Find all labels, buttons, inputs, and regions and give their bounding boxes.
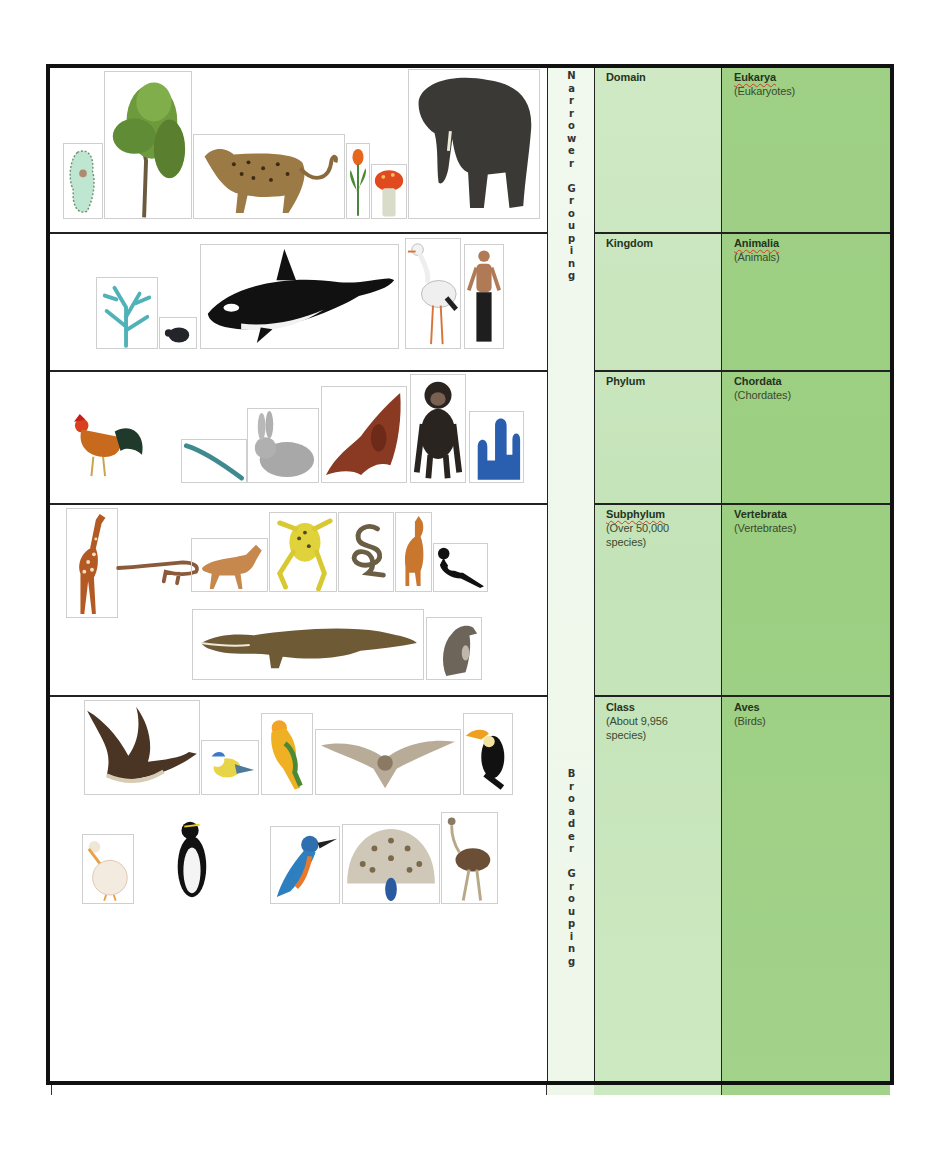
rank-note: (About 9,956 xyxy=(606,714,668,728)
pelican-image xyxy=(82,834,134,904)
blue-tit-image xyxy=(201,740,259,795)
taxon-name: Animalia xyxy=(734,236,780,250)
row-divider xyxy=(50,695,548,697)
rabbit-image xyxy=(247,408,319,483)
elephant-image xyxy=(408,69,540,219)
taxon-column xyxy=(722,68,890,1081)
rank-label: Phylum xyxy=(606,374,645,388)
taxon-cell-vertebrata: Vertebrata (Vertebrates) xyxy=(734,507,796,535)
crocodile-image xyxy=(192,609,424,680)
broader-grouping-label: B r o a d e r G r o u p i n g xyxy=(548,768,595,968)
cat-image xyxy=(395,512,432,592)
rank-label: Subphylum xyxy=(606,507,669,521)
peacock-image xyxy=(342,824,440,904)
taxon-name: Aves xyxy=(734,700,766,714)
dog-image xyxy=(191,538,268,592)
narrower-grouping-label: N a r r o w e r G r o u p i n g xyxy=(548,70,595,283)
taxon-cell-chordata: Chordata (Chordates) xyxy=(734,374,791,402)
sea-squirt-image xyxy=(469,411,524,483)
table-tick xyxy=(51,1085,52,1095)
leopard-image xyxy=(193,134,345,219)
classification-table: N a r r o w e r G r o u p i n g B r o a … xyxy=(46,64,894,1085)
taxon-common-name: (Eukaryotes) xyxy=(734,84,795,98)
human-image xyxy=(464,244,504,349)
taxon-common-name: (Birds) xyxy=(734,714,766,728)
taxon-column-overflow xyxy=(722,1085,890,1095)
giraffe-image xyxy=(66,508,118,618)
penguin-image xyxy=(170,815,213,904)
page: N a r r o w e r G r o u p i n g B r o a … xyxy=(0,0,936,1151)
willow-tree-image xyxy=(104,71,192,219)
snake-image xyxy=(338,512,394,592)
row-divider xyxy=(50,503,548,505)
taxon-common-name: (Chordates) xyxy=(734,388,791,402)
rank-cell-domain: Domain xyxy=(606,70,646,84)
rank-column xyxy=(595,68,722,1081)
row-divider xyxy=(595,370,890,372)
parrot-image xyxy=(261,713,313,795)
tulip-image xyxy=(346,143,370,219)
chimpanzee-image xyxy=(410,374,466,483)
grouping-column-overflow xyxy=(547,1085,594,1095)
rank-label: Domain xyxy=(606,70,646,84)
mushroom-image xyxy=(371,164,407,219)
taxon-name: Eukarya xyxy=(734,70,795,84)
taxon-name: Vertebrata xyxy=(734,507,796,521)
taxon-common-name: (Animals) xyxy=(734,250,780,264)
magpie-image xyxy=(433,543,488,592)
rat-image xyxy=(426,617,482,680)
taxon-cell-animalia: Animalia (Animals) xyxy=(734,236,780,264)
row-divider xyxy=(50,232,548,234)
row-divider xyxy=(595,232,890,234)
coral-image xyxy=(96,277,158,349)
grouping-column: N a r r o w e r G r o u p i n g B r o a … xyxy=(548,68,595,1081)
taxon-common-name: (Vertebrates) xyxy=(734,521,796,535)
beetle-image xyxy=(159,317,197,349)
rooster-image xyxy=(63,411,149,483)
rank-label: Kingdom xyxy=(606,236,653,250)
bat-image xyxy=(321,386,407,483)
rank-note: (Over 50,000 xyxy=(606,521,669,535)
toucan-image xyxy=(463,713,513,795)
rank-cell-kingdom: Kingdom xyxy=(606,236,653,250)
rank-cell-class: Class (About 9,956 species) xyxy=(606,700,668,742)
frog-image xyxy=(269,512,337,592)
rank-cell-phylum: Phylum xyxy=(606,374,645,388)
row-divider xyxy=(50,370,548,372)
row-divider xyxy=(595,503,890,505)
rank-note: species) xyxy=(606,535,669,549)
rank-column-overflow xyxy=(594,1085,721,1095)
row-divider xyxy=(595,695,890,697)
ostrich-image xyxy=(441,812,498,904)
feather-image xyxy=(181,439,247,483)
taxon-name: Chordata xyxy=(734,374,791,388)
owl-image xyxy=(315,729,461,795)
rank-cell-subphylum: Subphylum (Over 50,000 species) xyxy=(606,507,669,549)
orca-image xyxy=(200,244,399,349)
taxon-cell-aves: Aves (Birds) xyxy=(734,700,766,728)
rank-label: Class xyxy=(606,700,668,714)
kingfisher-image xyxy=(270,826,340,904)
stork-image xyxy=(405,238,461,349)
taxon-cell-eukarya: Eukarya (Eukaryotes) xyxy=(734,70,795,98)
cactus-image xyxy=(63,143,103,219)
rank-note: species) xyxy=(606,728,668,742)
goose-image xyxy=(84,700,200,795)
